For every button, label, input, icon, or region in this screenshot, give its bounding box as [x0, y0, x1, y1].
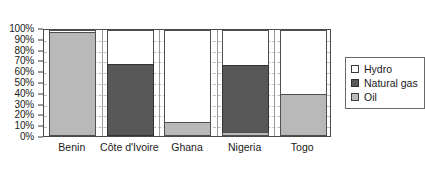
stacked-bar[interactable] [164, 30, 211, 136]
y-axis-tick-label: 20% [15, 110, 34, 120]
legend-item-label: Oil [364, 92, 377, 103]
stacked-bar[interactable] [280, 30, 327, 136]
bar-segment-oil[interactable] [164, 122, 211, 136]
legend: HydroNatural gasOil [345, 57, 425, 109]
legend-item[interactable]: Natural gas [351, 76, 418, 90]
bar-segment-hydro[interactable] [164, 30, 211, 122]
bars-layer [44, 30, 330, 136]
bar-slot [102, 30, 160, 136]
y-axis: 0%10%20%30%40%50%60%70%80%90%100% [0, 29, 38, 137]
y-axis-tick-label: 50% [15, 78, 34, 88]
x-axis-tick-label: Benin [58, 141, 85, 154]
x-axis-tick-label: Togo [291, 141, 314, 154]
y-axis-tick-label: 60% [15, 67, 34, 77]
legend-swatch-icon [351, 93, 359, 101]
bar-segment-oil[interactable] [222, 132, 269, 136]
bar-segment-oil[interactable] [49, 32, 96, 136]
y-axis-tick-label: 90% [15, 35, 34, 45]
bar-slot [217, 30, 275, 136]
legend-item-label: Natural gas [364, 78, 418, 89]
bar-slot [274, 30, 332, 136]
bar-slot [44, 30, 102, 136]
legend-swatch-icon [351, 79, 359, 87]
bar-segment-natural-gas[interactable] [222, 65, 269, 132]
bar-segment-natural-gas[interactable] [107, 64, 154, 136]
plot-area [43, 29, 331, 137]
stacked-bar[interactable] [107, 30, 154, 136]
bar-segment-hydro[interactable] [107, 30, 154, 64]
legend-item-label: Hydro [364, 64, 392, 75]
y-axis-tick-label: 40% [15, 89, 34, 99]
x-axis: BeninCôte d'IvoireGhanaNigeriaTogo [43, 141, 331, 159]
x-axis-tick-label: Côte d'Ivoire [100, 141, 159, 154]
bar-segment-oil[interactable] [280, 94, 327, 136]
bar-segment-hydro[interactable] [280, 30, 327, 94]
y-axis-tick-label: 70% [15, 56, 34, 66]
legend-item[interactable]: Hydro [351, 62, 418, 76]
legend-swatch-icon [351, 65, 359, 73]
y-axis-tick-label: 0% [20, 132, 34, 142]
x-axis-tick-label: Ghana [171, 141, 203, 154]
bar-segment-hydro[interactable] [222, 30, 269, 65]
y-axis-tick-label: 80% [15, 46, 34, 56]
stacked-bar[interactable] [222, 30, 269, 136]
y-axis-tick-label: 10% [15, 121, 34, 131]
legend-item[interactable]: Oil [351, 90, 418, 104]
x-axis-tick-label: Nigeria [228, 141, 261, 154]
bar-slot [159, 30, 217, 136]
y-axis-tick-label: 100% [9, 24, 34, 34]
y-axis-tick-label: 30% [15, 100, 34, 110]
stacked-bar[interactable] [49, 30, 96, 136]
